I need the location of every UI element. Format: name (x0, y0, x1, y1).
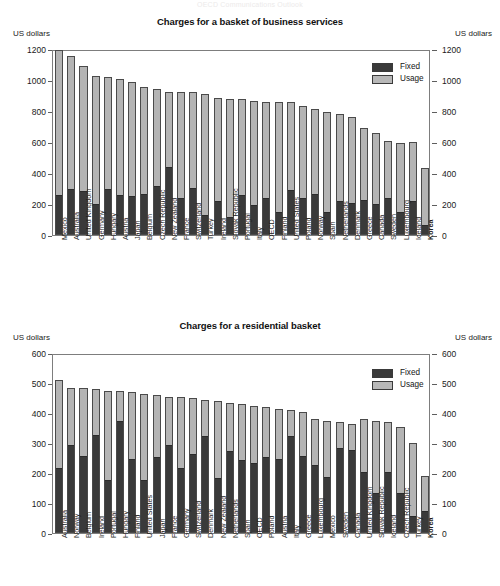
y-tick-label: 200 (8, 201, 46, 210)
y-tick-label: 200 (442, 470, 482, 479)
x-axis-label: Finland (134, 514, 141, 538)
x-axis-label: France (171, 516, 178, 538)
x-axis-label: Germany (98, 210, 105, 240)
x-axis-label: Poland (305, 218, 312, 240)
legend-row-fixed: Fixed (372, 62, 424, 72)
y-tick-label: 800 (8, 108, 46, 117)
x-axis-label: Belgium (85, 512, 92, 538)
x-axis-label: France (183, 218, 190, 240)
bar (275, 102, 283, 235)
y-tick-mark (48, 174, 52, 175)
y-tick-label: 300 (442, 440, 482, 449)
x-axis-label: Luxembourg (403, 200, 410, 240)
bar (250, 406, 258, 534)
x-axis-label: Hungary (122, 511, 129, 538)
x-axis-label: OECD (256, 517, 263, 538)
x-axis-label: Austria (122, 218, 129, 240)
y-tick-label: 400 (8, 410, 46, 419)
x-axis-label: Korea (427, 518, 434, 538)
bar (128, 82, 136, 235)
bar (287, 410, 295, 533)
y-tick-mark (48, 81, 52, 82)
x-axis-label: OECD (268, 219, 275, 240)
x-axis-label: United States (293, 197, 300, 240)
y-tick-mark (432, 112, 437, 113)
y-tick-mark (48, 205, 52, 206)
x-axis-label: Turkey (415, 516, 422, 538)
bar (55, 50, 63, 235)
legend-label-usage: Usage (400, 75, 424, 83)
y-tick-mark (48, 444, 52, 445)
y-tick-label: 600 (442, 139, 482, 148)
x-axis-label: Czech Republic (403, 488, 410, 538)
y-tick-label: 1200 (8, 46, 46, 55)
y-tick-label: 500 (442, 380, 482, 389)
x-axis-label: United Kingdom (85, 189, 92, 240)
legend-label-fixed: Fixed (400, 63, 420, 71)
x-axis-label: Greece (305, 514, 312, 538)
x-axis-label: Luxembourg (317, 498, 324, 538)
y-tick-mark (432, 174, 437, 175)
legend-row-usage: Usage (372, 74, 424, 84)
y-tick-mark (48, 414, 52, 415)
x-axis-label: Mexico (329, 515, 336, 538)
legend-row-fixed: Fixed (372, 368, 424, 378)
x-axis-label: United States (146, 495, 153, 538)
bar (214, 98, 222, 235)
y-tick-label: 400 (442, 410, 482, 419)
y-tick-mark (432, 354, 437, 355)
bar (275, 409, 283, 534)
y-tick-label: 600 (442, 350, 482, 359)
business-units-left: US dollars (13, 29, 50, 38)
x-axis-label: Sweden (390, 214, 397, 240)
x-axis-label: Canada (378, 215, 385, 240)
x-axis-label: Hungary (110, 213, 117, 240)
y-tick-label: 400 (442, 170, 482, 179)
y-tick-mark (432, 50, 437, 51)
y-tick-mark (48, 384, 52, 385)
y-tick-mark (432, 143, 437, 144)
residential-legend: Fixed Usage (372, 368, 424, 392)
x-axis-label: Italy (256, 227, 263, 240)
bar (140, 87, 148, 235)
bar (262, 102, 270, 235)
x-axis-label: Japan (159, 518, 166, 538)
faint-page-header: OECD Communications Outlook (0, 1, 500, 8)
x-axis-label: Portugal (110, 511, 117, 538)
y-tick-label: 100 (8, 500, 46, 509)
fixed-swatch-icon (372, 63, 393, 72)
y-tick-mark (48, 474, 52, 475)
y-tick-mark (48, 236, 52, 237)
usage-swatch-icon (372, 381, 393, 390)
x-axis-label: Ireland (220, 218, 227, 240)
x-axis-label: Switzerland (195, 203, 202, 240)
y-tick-label: 0 (442, 232, 482, 241)
x-axis-label: Denmark (207, 509, 214, 538)
x-axis-label: Sweden (342, 512, 349, 538)
x-axis-label: Switzerland (195, 501, 202, 538)
bar (67, 56, 75, 235)
x-axis-label: Italy (293, 525, 300, 538)
x-axis-label: Slovak Republic (378, 486, 385, 538)
y-tick-label: 400 (8, 170, 46, 179)
x-axis-label: Czech Republic (159, 190, 166, 240)
legend-label-fixed: Fixed (400, 369, 420, 377)
x-axis-label: Netherlands (232, 499, 239, 538)
y-tick-mark (432, 384, 437, 385)
usage-swatch-icon (372, 75, 393, 84)
x-axis-label: Poland (268, 516, 275, 538)
x-axis-label: Turkey (207, 218, 214, 240)
y-tick-label: 1200 (442, 46, 482, 55)
x-axis-label: Portugal (244, 213, 251, 240)
y-tick-label: 0 (8, 232, 46, 241)
y-tick-mark (48, 112, 52, 113)
x-axis-label: Australia (73, 212, 80, 240)
x-axis-label: Spain (329, 222, 336, 240)
y-tick-label: 200 (442, 201, 482, 210)
x-axis-label: Denmark (354, 211, 361, 240)
y-tick-label: 600 (8, 350, 46, 359)
x-axis-label: Norway (73, 514, 80, 538)
x-axis-label: Japan (134, 220, 141, 240)
y-tick-mark (432, 81, 437, 82)
y-tick-label: 0 (442, 530, 482, 539)
